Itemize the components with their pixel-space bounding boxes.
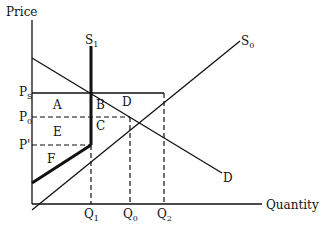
region-b-label: B xyxy=(96,98,105,112)
region-f-label: F xyxy=(47,152,55,166)
q1-label: Q1 xyxy=(84,207,99,223)
q0-label: Q0 xyxy=(123,207,138,223)
x-axis-label: Quantity xyxy=(266,198,319,212)
region-e-label: E xyxy=(53,125,62,139)
region-d-label: D xyxy=(122,95,132,109)
demand-curve xyxy=(32,58,222,173)
supply-demand-diagram: Price Quantity S1 S0 D PS P0 P' Q1 Q0 Q2… xyxy=(0,0,332,232)
s1-label: S1 xyxy=(85,33,98,49)
q2-label: Q2 xyxy=(157,207,172,223)
region-a-label: A xyxy=(52,98,62,112)
ps-label: PS xyxy=(19,85,33,101)
supply-curve-s0 xyxy=(32,41,240,210)
region-c-label: C xyxy=(96,119,105,133)
pprime-label: P' xyxy=(19,138,30,152)
y-axis-label: Price xyxy=(6,5,37,19)
s0-label: S0 xyxy=(241,34,254,50)
d-label: D xyxy=(223,171,233,185)
supply-curve-s1-slope xyxy=(32,145,91,183)
p0-label: P0 xyxy=(19,110,32,126)
